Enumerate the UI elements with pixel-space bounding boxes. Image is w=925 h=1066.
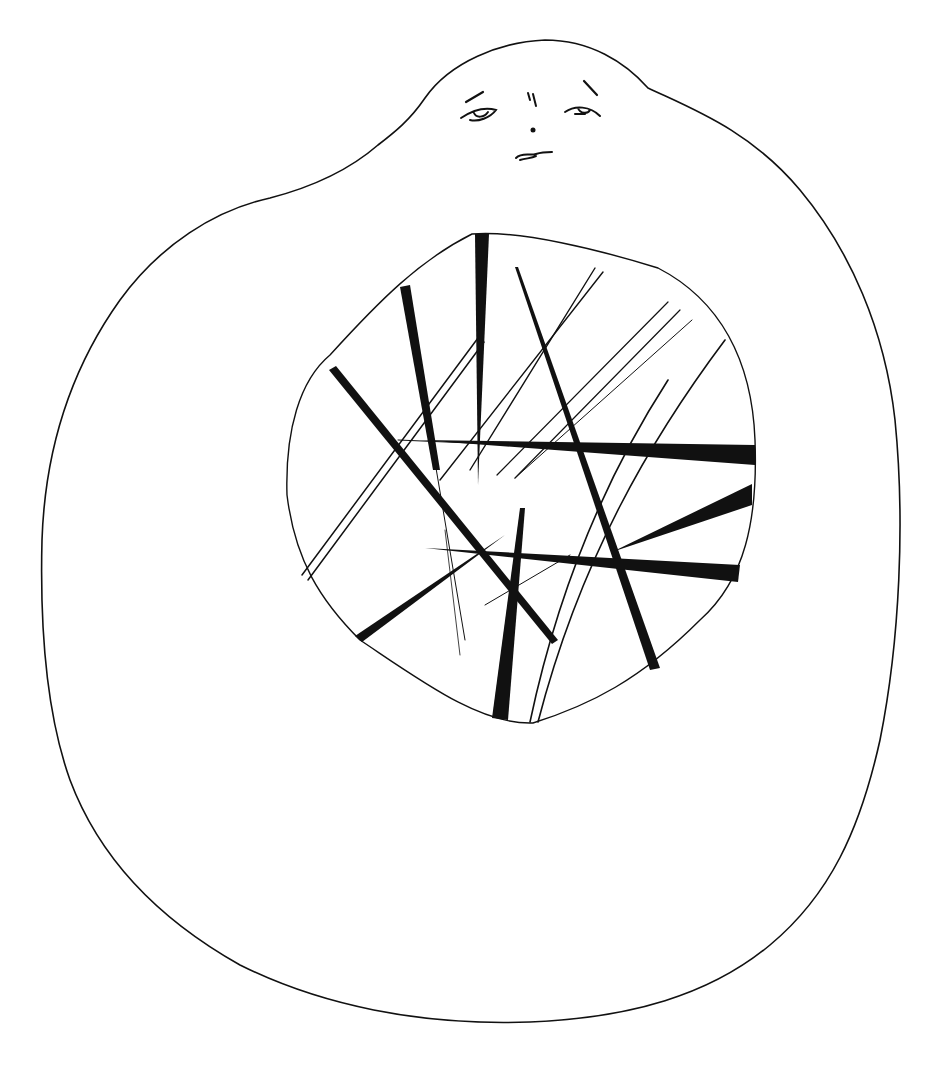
stroke-vertical-top [475, 234, 489, 485]
stroke-faint [445, 530, 460, 655]
stroke-double-b [308, 342, 484, 580]
mouth-icon [516, 152, 552, 160]
stroke-horizontal-mid [425, 548, 740, 582]
window-outline [287, 233, 756, 723]
nose-dot-icon [531, 128, 536, 133]
nose-marks-icon [528, 93, 536, 106]
right-eye-icon [565, 107, 600, 116]
window [287, 233, 756, 723]
face [461, 81, 600, 160]
crossing-strokes [302, 234, 755, 722]
stroke-lower-left [355, 535, 505, 642]
stroke-diagonal-right [515, 267, 660, 670]
stroke-wedge-right [612, 484, 752, 552]
stroke-left-taper [400, 285, 440, 470]
ink-drawing [0, 0, 925, 1066]
stroke-curve-2 [538, 340, 725, 722]
right-eyebrow-icon [584, 81, 597, 95]
body-outline [42, 40, 900, 1022]
left-eye-icon [461, 109, 496, 121]
stroke-vertical-lower [492, 508, 525, 720]
stroke-thin-cross [485, 555, 570, 605]
left-eyebrow-icon [466, 92, 483, 102]
stroke-double-a [302, 338, 478, 575]
drawing-canvas [0, 0, 925, 1066]
